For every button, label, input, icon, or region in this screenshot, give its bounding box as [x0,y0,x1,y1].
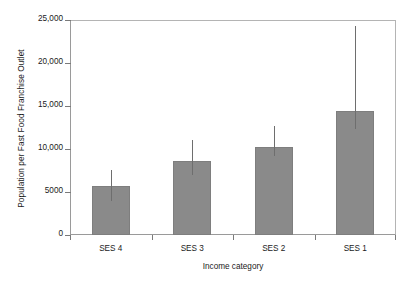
x-axis-tick [395,235,396,240]
plot-area [70,20,396,235]
y-axis-tick-label: 5000 [3,186,63,195]
error-bar [192,140,193,175]
x-axis-tick-label: SES 4 [66,244,156,253]
x-axis-tick [315,235,316,240]
y-axis-tick-label: 15,000 [3,100,63,109]
x-axis-tick [70,235,71,240]
y-axis-tick-label: 20,000 [3,57,63,66]
x-axis-tick [152,235,153,240]
bar [255,147,293,235]
x-axis-tick-label: SES 1 [310,244,400,253]
x-axis-tick [233,235,234,240]
error-bar [355,26,356,129]
x-axis-tick-label: SES 3 [147,244,237,253]
y-axis-tick-label: 25,000 [3,14,63,23]
x-axis-tick-label: SES 2 [229,244,319,253]
y-axis-tick-label: 0 [3,229,63,238]
y-axis-tick-label: 10,000 [3,143,63,152]
y-axis-title: Population per Fast Food Franchise Outle… [14,21,30,236]
x-axis-title: Income category [70,262,396,271]
error-bar [111,170,112,201]
bar [336,111,374,235]
chart-container: Population per Fast Food Franchise Outle… [0,0,410,283]
error-bar [274,126,275,157]
